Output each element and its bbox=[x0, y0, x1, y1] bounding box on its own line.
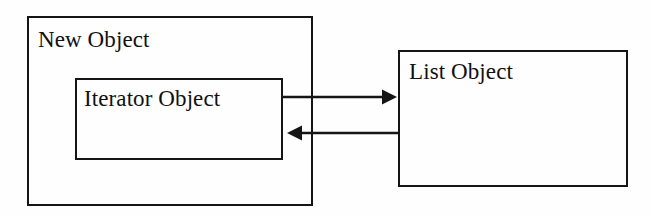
arrowhead-right-icon bbox=[382, 90, 397, 105]
node-iterator-object-label: Iterator Object bbox=[84, 85, 220, 112]
diagram-canvas: New Object Iterator Object List Object bbox=[0, 0, 652, 215]
node-new-object-label: New Object bbox=[38, 26, 150, 53]
node-list-object-label: List Object bbox=[409, 58, 513, 85]
